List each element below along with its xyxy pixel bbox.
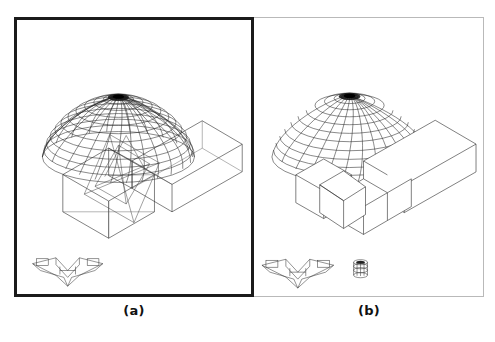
figure-root: (a) (b) <box>0 0 495 342</box>
panel-a-caption: (a) <box>14 303 254 318</box>
panel-a-wireframe-canvas <box>17 20 251 294</box>
chevron-reference-object-b <box>262 259 334 288</box>
cylinder-reference-object-b <box>354 260 368 278</box>
geodesic-dome-a <box>42 94 194 183</box>
panel-b-caption: (b) <box>254 303 484 318</box>
panel-b <box>254 17 484 297</box>
chevron-reference-object-a <box>33 258 103 286</box>
panel-b-wireframe-canvas <box>254 18 483 296</box>
dome-apex-cluster <box>108 94 129 101</box>
panel-a <box>14 17 254 297</box>
dome-apex-cluster <box>339 93 361 100</box>
